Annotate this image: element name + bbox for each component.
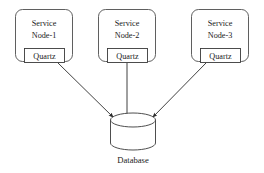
connector-node3-to-database (153, 63, 207, 118)
connector-node1-to-database (58, 63, 114, 118)
diagram-canvas: Service Node-1 Quartz Service Node-2 Qua… (0, 0, 264, 173)
service-node-3-label-line1: Service (208, 19, 233, 28)
service-node-1-label-line2: Node-1 (32, 31, 57, 40)
architecture-diagram: Service Node-1 Quartz Service Node-2 Qua… (0, 0, 264, 173)
service-node-2-label-line1: Service (115, 19, 140, 28)
service-node-1-label-line1: Service (32, 19, 57, 28)
service-node-1[interactable]: Service Node-1 Quartz (16, 10, 73, 63)
database-label: Database (117, 155, 149, 165)
database-node[interactable]: Database (111, 113, 156, 165)
database-cylinder-top (111, 113, 156, 127)
service-node-1-quartz-label: Quartz (33, 52, 56, 61)
service-node-2[interactable]: Service Node-2 Quartz (99, 10, 156, 63)
service-node-2-label-line2: Node-2 (115, 31, 140, 40)
service-node-3-label-line2: Node-3 (208, 31, 233, 40)
service-node-3-quartz-label: Quartz (209, 52, 232, 61)
service-node-3[interactable]: Service Node-3 Quartz (192, 10, 249, 63)
connector-group (58, 63, 206, 119)
service-node-2-quartz-label: Quartz (116, 52, 139, 61)
